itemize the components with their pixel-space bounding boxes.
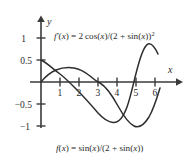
y-tick-label-neg0.5: −0.5	[15, 100, 32, 110]
y-axis-arrowhead	[37, 16, 45, 23]
x-tick-label-4: 4	[115, 88, 120, 98]
x-axis-label: x	[167, 64, 173, 75]
x-tick-label-5: 5	[134, 88, 139, 98]
y-tick-label-0.5: 0.5	[20, 56, 32, 66]
plot-svg: 1 2 3 4 5 6 1 0.5 −0.5 −1 y x f′(x) = 2 …	[0, 0, 190, 161]
x-tick-label-1: 1	[58, 88, 63, 98]
function-equation-label: f(x) = sin(x)/(2 + sin(x))	[56, 143, 143, 153]
derivative-equation-label: f′(x) = 2 cos(x)/(2 + sin(x))2	[54, 30, 155, 42]
y-tick-label-1: 1	[21, 34, 26, 44]
y-axis-label: y	[46, 16, 52, 27]
function-graph-figure: 1 2 3 4 5 6 1 0.5 −0.5 −1 y x f′(x) = 2 …	[0, 0, 190, 161]
x-axis-arrowhead	[176, 78, 183, 86]
x-tick-label-3: 3	[96, 88, 101, 98]
y-tick-label-neg1: −1	[20, 122, 30, 132]
